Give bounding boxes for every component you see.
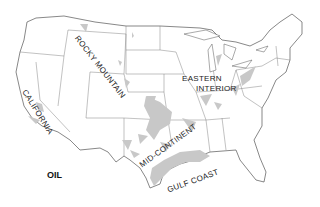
label-eastern-interior-line1: EASTERN — [182, 74, 222, 83]
us-outline — [16, 14, 302, 188]
label-eastern-interior-line2: INTERIOR — [196, 84, 237, 93]
map-title: OIL — [47, 170, 62, 180]
